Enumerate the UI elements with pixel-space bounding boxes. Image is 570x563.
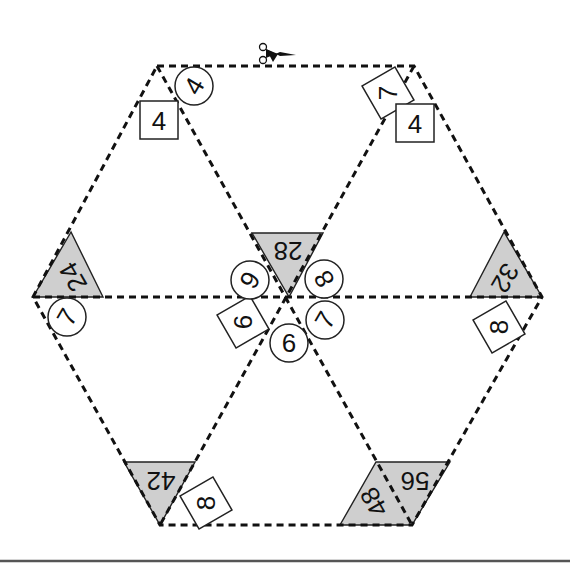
scissors-icon [260,44,297,64]
svg-text:6: 6 [282,328,296,358]
svg-text:4: 4 [408,109,422,139]
square-right: 8 [473,301,525,353]
circle-center-upper-left: 6 [231,261,269,299]
svg-text:8: 8 [484,320,514,334]
square-bottom-left: 8 [180,477,232,529]
svg-text:7: 7 [373,86,403,100]
circle-center-upper-right: 8 [305,260,343,298]
circle-center-right: 7 [306,301,344,339]
bottom-right-triangle-b-product: 56 [401,466,430,496]
center-triangle-product: 28 [274,236,303,266]
svg-text:4: 4 [152,106,166,136]
bottom-left-triangle-product: 42 [147,466,176,496]
square-top-left: 4 [140,101,178,139]
bottom-right-shade [340,462,450,525]
svg-text:8: 8 [191,496,221,510]
circle-top-left: 4 [175,67,213,105]
circle-center-bottom: 6 [270,324,308,362]
svg-text:6: 6 [228,315,258,329]
hexagon-puzzle: 28 24 32 42 48 56 4 7 4 6 8 8 4 6 8 [0,0,570,563]
circle-left: 7 [48,298,86,336]
square-top-right: 4 [396,104,434,142]
